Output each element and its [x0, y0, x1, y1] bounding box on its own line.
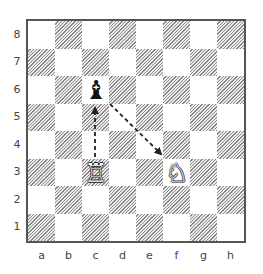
square-f6[interactable]	[163, 76, 190, 104]
file-label-d: d	[109, 249, 136, 262]
square-c2[interactable]	[82, 186, 109, 214]
square-a6[interactable]	[28, 76, 55, 104]
square-a1[interactable]	[28, 214, 55, 242]
white-rook-icon[interactable]: ♖	[82, 159, 110, 187]
square-c1[interactable]	[82, 214, 109, 242]
file-label-h: h	[217, 249, 244, 262]
square-h3[interactable]	[217, 159, 244, 187]
square-a8[interactable]	[28, 21, 55, 49]
square-e4[interactable]	[136, 131, 163, 159]
square-d4[interactable]	[109, 131, 136, 159]
rank-label-1: 1	[11, 220, 23, 233]
square-e1[interactable]	[136, 214, 163, 242]
square-e7[interactable]	[136, 49, 163, 77]
square-h2[interactable]	[217, 186, 244, 214]
square-f7[interactable]	[163, 49, 190, 77]
square-c8[interactable]	[82, 21, 109, 49]
rank-label-5: 5	[11, 110, 23, 123]
file-label-e: e	[136, 249, 163, 262]
square-b5[interactable]	[55, 104, 82, 132]
file-label-g: g	[190, 249, 217, 262]
square-e2[interactable]	[136, 186, 163, 214]
file-label-f: f	[163, 249, 190, 262]
rank-label-8: 8	[11, 28, 23, 41]
square-c5[interactable]	[82, 104, 109, 132]
square-e3[interactable]	[136, 159, 163, 187]
square-e6[interactable]	[136, 76, 163, 104]
square-d6[interactable]	[109, 76, 136, 104]
square-a3[interactable]	[28, 159, 55, 187]
square-g3[interactable]	[190, 159, 217, 187]
square-d1[interactable]	[109, 214, 136, 242]
file-label-b: b	[55, 249, 82, 262]
square-d2[interactable]	[109, 186, 136, 214]
square-d8[interactable]	[109, 21, 136, 49]
square-a5[interactable]	[28, 104, 55, 132]
square-e8[interactable]	[136, 21, 163, 49]
square-b2[interactable]	[55, 186, 82, 214]
square-f4[interactable]	[163, 131, 190, 159]
square-f2[interactable]	[163, 186, 190, 214]
square-h1[interactable]	[217, 214, 244, 242]
square-c7[interactable]	[82, 49, 109, 77]
rank-label-7: 7	[11, 55, 23, 68]
square-g2[interactable]	[190, 186, 217, 214]
square-h8[interactable]	[217, 21, 244, 49]
square-h4[interactable]	[217, 131, 244, 159]
file-label-c: c	[82, 249, 109, 262]
file-label-a: a	[28, 249, 55, 262]
square-b4[interactable]	[55, 131, 82, 159]
square-g4[interactable]	[190, 131, 217, 159]
rank-label-2: 2	[11, 193, 23, 206]
square-a7[interactable]	[28, 49, 55, 77]
square-g5[interactable]	[190, 104, 217, 132]
rank-label-4: 4	[11, 138, 23, 151]
square-d7[interactable]	[109, 49, 136, 77]
rank-label-6: 6	[11, 83, 23, 96]
square-g6[interactable]	[190, 76, 217, 104]
square-b3[interactable]	[55, 159, 82, 187]
square-h7[interactable]	[217, 49, 244, 77]
square-g1[interactable]	[190, 214, 217, 242]
chess-board	[26, 19, 246, 243]
square-f5[interactable]	[163, 104, 190, 132]
square-e5[interactable]	[136, 104, 163, 132]
square-h6[interactable]	[217, 76, 244, 104]
square-a2[interactable]	[28, 186, 55, 214]
square-g7[interactable]	[190, 49, 217, 77]
square-a4[interactable]	[28, 131, 55, 159]
black-bishop-icon[interactable]: ♝	[82, 76, 110, 104]
square-b6[interactable]	[55, 76, 82, 104]
square-f8[interactable]	[163, 21, 190, 49]
square-d5[interactable]	[109, 104, 136, 132]
square-b1[interactable]	[55, 214, 82, 242]
square-g8[interactable]	[190, 21, 217, 49]
square-b7[interactable]	[55, 49, 82, 77]
square-b8[interactable]	[55, 21, 82, 49]
square-f1[interactable]	[163, 214, 190, 242]
rank-label-3: 3	[11, 165, 23, 178]
square-h5[interactable]	[217, 104, 244, 132]
square-d3[interactable]	[109, 159, 136, 187]
square-c4[interactable]	[82, 131, 109, 159]
white-knight-icon[interactable]: ♘	[163, 159, 191, 187]
